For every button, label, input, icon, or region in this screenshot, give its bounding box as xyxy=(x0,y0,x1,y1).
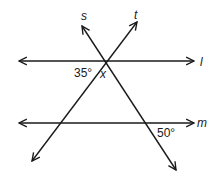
label-t: t xyxy=(134,8,138,22)
label-m: m xyxy=(197,116,207,130)
angle-35-label: 35° xyxy=(74,66,92,80)
diagram-canvas: s t l m 35° x 50° xyxy=(0,0,218,179)
angle-50-label: 50° xyxy=(157,126,175,140)
label-s: s xyxy=(81,9,87,23)
angle-x-label: x xyxy=(99,67,107,81)
line-t xyxy=(32,22,137,161)
label-l: l xyxy=(200,55,203,69)
line-s xyxy=(82,26,176,170)
